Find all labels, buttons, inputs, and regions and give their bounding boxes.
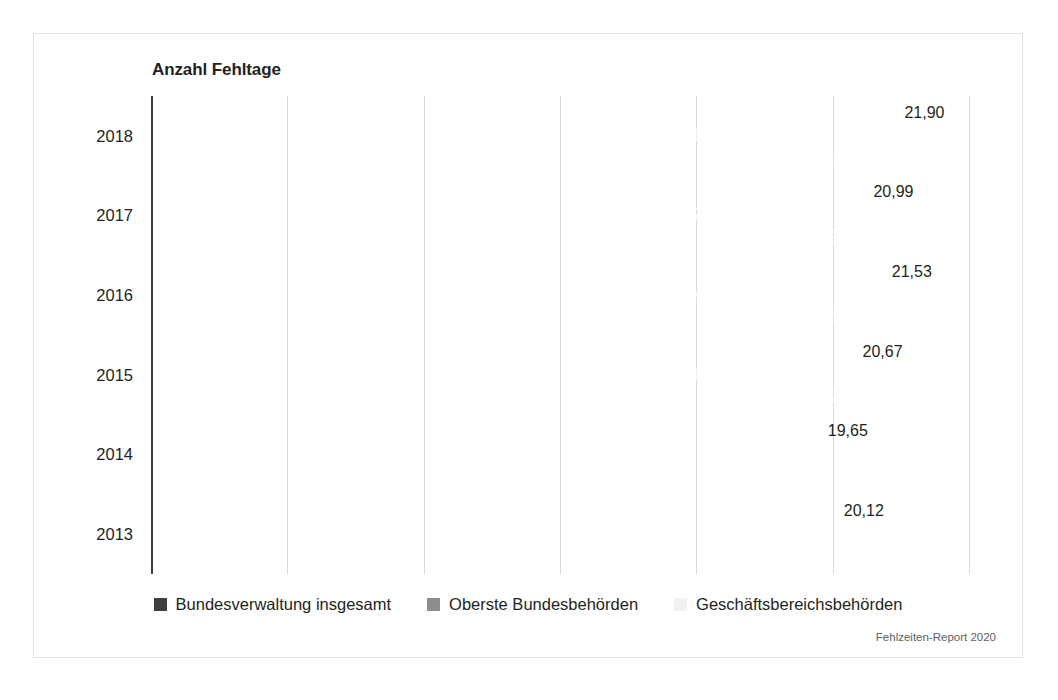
bar-row: 19,25 (151, 466, 807, 488)
bar-value-label: 21,90 (904, 105, 944, 121)
source-note: Fehlzeiten-Report 2020 (876, 631, 996, 643)
bar-row: 20,55 (151, 227, 851, 249)
chart-title: Anzahl Fehltage (152, 60, 281, 80)
bar-value-label: 16,50 (667, 207, 707, 223)
year-group: 201821,9016,3621,35 (151, 96, 969, 176)
bar-value-label: 21,35 (833, 151, 873, 167)
bar-row: 21,35 (151, 148, 879, 170)
bar-row: 20,99 (151, 181, 866, 203)
chart-legend: Bundesverwaltung insgesamtOberste Bundes… (34, 595, 1022, 614)
bar-row: 19,65 (151, 420, 821, 442)
legend-item-label: Geschäftsbereichsbehörden (696, 595, 902, 614)
y-axis-tick-label: 2015 (96, 365, 133, 384)
y-axis-tick-label: 2016 (96, 286, 133, 305)
bar-value-label: 16,24 (658, 367, 698, 383)
y-axis-tick-label: 2013 (96, 525, 133, 544)
legend-item[interactable]: Oberste Bundesbehörden (427, 595, 638, 614)
legend-item[interactable]: Bundesverwaltung insgesamt (154, 595, 392, 614)
y-axis-tick-label: 2018 (96, 126, 133, 145)
legend-item-label: Oberste Bundesbehörden (449, 595, 638, 614)
bar-value-label: 16,36 (663, 128, 703, 144)
chart-figure: Anzahl Fehltage 201821,9016,3621,3520172… (33, 33, 1023, 658)
bar-row: 19,75 (151, 546, 824, 568)
bar-value-label: 19,25 (761, 469, 801, 485)
year-group: 201621,5316,2021,01 (151, 255, 969, 335)
plot-area: 201821,9016,3621,35201720,9916,5020,5520… (151, 96, 969, 574)
bar-row: 16,50 (151, 204, 713, 226)
bar-value-label: 15,23 (624, 446, 664, 462)
legend-item[interactable]: Geschäftsbereichsbehörden (674, 595, 902, 614)
year-group: 201720,9916,5020,55 (151, 176, 969, 256)
gridline (969, 96, 970, 574)
legend-swatch-geschaefts (674, 598, 687, 611)
year-group: 201419,6515,2319,25 (151, 415, 969, 495)
bar-row: 15,23 (151, 443, 670, 465)
bar-row: 20,67 (151, 341, 856, 363)
bar-row: 16,36 (151, 125, 709, 147)
bar-row: 20,12 (151, 500, 837, 522)
bar-value-label: 16,20 (657, 287, 697, 303)
bar-row: 20,25 (151, 387, 841, 409)
bar-value-label: 20,99 (873, 184, 913, 200)
bar-value-label: 19,65 (828, 423, 868, 439)
bar-value-label: 21,01 (821, 310, 861, 326)
y-axis-tick-label: 2014 (96, 445, 133, 464)
bar-row: 21,90 (151, 102, 897, 124)
bar-value-label: 15,94 (648, 526, 688, 542)
bar-row: 16,20 (151, 284, 703, 306)
bar-value-label: 20,67 (863, 344, 903, 360)
bar-value-label: 20,12 (844, 503, 884, 519)
bar-value-label: 20,55 (805, 230, 845, 246)
legend-swatch-bundesverwaltung (154, 598, 167, 611)
bar-value-label: 19,75 (778, 549, 818, 565)
year-group: 201320,1215,9419,75 (151, 494, 969, 574)
year-group: 201520,6716,2420,25 (151, 335, 969, 415)
y-axis-tick-label: 2017 (96, 206, 133, 225)
bar-row: 15,94 (151, 523, 694, 545)
bar-row: 16,24 (151, 364, 705, 386)
legend-swatch-oberste (427, 598, 440, 611)
bar-value-label: 21,53 (892, 264, 932, 280)
bar-row: 21,01 (151, 307, 867, 329)
legend-item-label: Bundesverwaltung insgesamt (176, 595, 392, 614)
bar-value-label: 20,25 (795, 390, 835, 406)
bar-row: 21,53 (151, 261, 885, 283)
